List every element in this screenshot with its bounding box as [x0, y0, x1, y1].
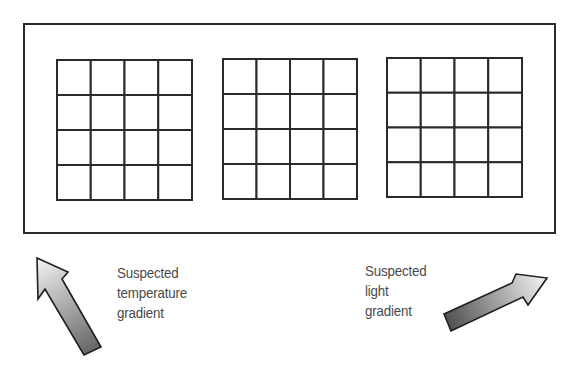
plate-well	[91, 60, 125, 95]
plate-well	[387, 93, 421, 128]
plate-well	[421, 58, 455, 93]
light-label-line-1: Suspected	[365, 261, 426, 281]
plate-well	[57, 130, 91, 165]
temperature-label-line-2: temperature	[117, 283, 187, 303]
plate-well	[257, 164, 291, 199]
plate-well	[125, 130, 159, 165]
plate-well	[125, 60, 159, 95]
plate-well	[257, 94, 291, 129]
plate-well	[324, 129, 358, 164]
plate-well	[158, 95, 192, 130]
plate-well	[488, 58, 522, 93]
plate-well	[387, 162, 421, 197]
plate-well	[125, 95, 159, 130]
plate-well	[257, 59, 291, 94]
plate-well	[257, 129, 291, 164]
light-gradient-label: Suspected light gradient	[365, 261, 426, 321]
temperature-gradient-label: Suspected temperature gradient	[117, 263, 187, 323]
plate-well	[455, 58, 489, 93]
plate-well	[488, 128, 522, 163]
light-label-line-2: light	[365, 281, 426, 301]
plate-well	[488, 93, 522, 128]
plate-well	[290, 164, 324, 199]
plate-well	[158, 60, 192, 95]
diagram-canvas	[0, 0, 584, 385]
plate-well	[290, 129, 324, 164]
plate-well	[324, 164, 358, 199]
plate-well	[421, 128, 455, 163]
plate-well	[91, 95, 125, 130]
plate-well	[324, 59, 358, 94]
plate-well	[290, 94, 324, 129]
plate-well	[324, 94, 358, 129]
plate-well	[91, 165, 125, 200]
plate-well	[158, 165, 192, 200]
temperature-gradient-arrow-icon	[37, 258, 101, 355]
plate-grid-1	[57, 60, 192, 200]
plate-well	[91, 130, 125, 165]
plate-well	[57, 165, 91, 200]
plate-well	[421, 162, 455, 197]
plate-well	[290, 59, 324, 94]
plate-well	[223, 94, 257, 129]
plate-well	[223, 164, 257, 199]
plate-well	[455, 162, 489, 197]
plate-well	[57, 95, 91, 130]
plate-grid-2	[223, 59, 357, 199]
plate-well	[125, 165, 159, 200]
plate-grid-3	[387, 58, 522, 197]
plate-well	[455, 128, 489, 163]
plates-group	[57, 58, 522, 200]
light-label-line-3: gradient	[365, 301, 426, 321]
plate-well	[158, 130, 192, 165]
plate-well	[57, 60, 91, 95]
plate-well	[223, 59, 257, 94]
plate-well	[387, 58, 421, 93]
plate-well	[223, 129, 257, 164]
temperature-label-line-3: gradient	[117, 303, 187, 323]
plate-well	[455, 93, 489, 128]
light-gradient-arrow-icon	[444, 274, 547, 331]
plate-well	[387, 128, 421, 163]
plate-well	[488, 162, 522, 197]
temperature-label-line-1: Suspected	[117, 263, 187, 283]
plate-well	[421, 93, 455, 128]
